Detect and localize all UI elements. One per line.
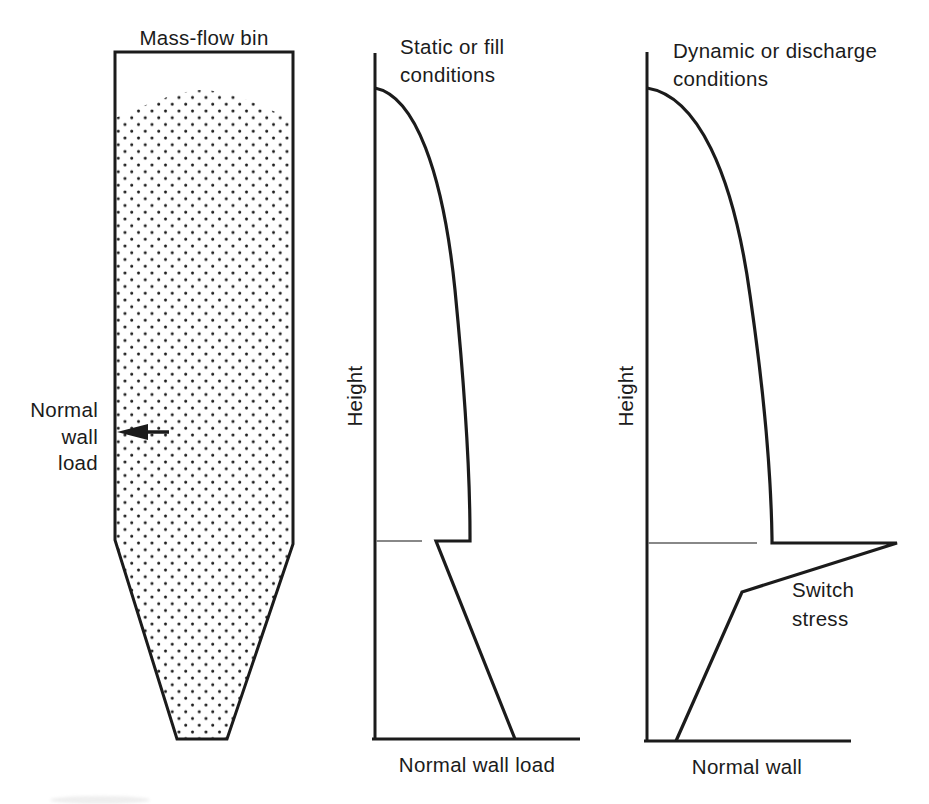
static-plot-y-label: Height (343, 365, 366, 426)
static-plot: Static or fill conditions Height Normal … (343, 35, 580, 776)
wall-load-label: Normal wall load (30, 398, 98, 474)
wall-load-label-line1: Normal (30, 398, 98, 421)
dynamic-plot-title-line1: Dynamic or discharge (673, 39, 877, 62)
dynamic-plot-x-label: Normal wall (692, 755, 802, 778)
switch-stress-line2: stress (792, 607, 848, 630)
bin-drawing: Mass-flow bin Normal wall load (30, 26, 293, 739)
static-plot-title-line1: Static or fill (400, 35, 504, 58)
bin-material-stipple (115, 90, 293, 739)
wall-load-label-line2: wall (60, 425, 98, 448)
static-plot-x-label: Normal wall load (399, 753, 555, 776)
mass-flow-bin-figure: Mass-flow bin Normal wall load Static or… (0, 0, 929, 804)
figure-canvas: Mass-flow bin Normal wall load Static or… (0, 0, 929, 804)
static-plot-title-line2: conditions (400, 63, 495, 86)
cropped-caption-artifact (50, 796, 150, 804)
switch-stress-line1: Switch (792, 578, 854, 601)
switch-stress-annotation: Switch stress (792, 578, 854, 630)
bin-title: Mass-flow bin (139, 26, 268, 49)
wall-load-label-line3: load (58, 451, 98, 474)
dynamic-plot-y-label: Height (614, 365, 637, 426)
static-load-curve (375, 88, 515, 739)
dynamic-plot-title-line2: conditions (673, 67, 768, 90)
dynamic-plot: Dynamic or discharge conditions Height S… (614, 39, 897, 778)
dynamic-load-curve (647, 88, 897, 741)
